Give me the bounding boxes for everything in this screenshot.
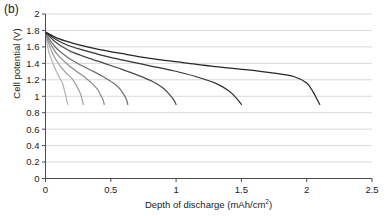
y-tick-label: 0 [34, 173, 39, 184]
y-tick-label: 0.6 [26, 124, 39, 135]
gridlines-group [46, 14, 373, 162]
y-tick-label: 1 [34, 91, 39, 102]
x-tick-label: 1.5 [235, 184, 248, 195]
x-tick-label: 2.5 [365, 184, 378, 195]
x-ticks-group: 00.511.522.5 [43, 179, 379, 195]
data-curve-curve-6 [46, 32, 242, 104]
x-tick-label: 1 [173, 184, 178, 195]
plot-svg: 00.20.40.60.811.21.41.61.82 00.511.522.5 [0, 0, 391, 216]
figure-container: (b) Cell potential (V) Depth of discharg… [0, 0, 391, 216]
data-curves-group [46, 32, 320, 104]
y-tick-label: 0.8 [26, 107, 39, 118]
y-tick-label: 1.8 [26, 25, 39, 36]
y-tick-label: 2 [34, 8, 39, 19]
x-tick-label: 0.5 [104, 184, 117, 195]
x-tick-label: 2 [304, 184, 309, 195]
x-tick-label: 0 [43, 184, 48, 195]
y-tick-label: 0.2 [26, 156, 39, 167]
y-tick-label: 1.4 [26, 58, 39, 69]
y-ticks-group: 00.20.40.60.811.21.41.61.82 [26, 8, 45, 184]
y-tick-label: 1.6 [26, 41, 39, 52]
y-tick-label: 0.4 [26, 140, 39, 151]
y-tick-label: 1.2 [26, 74, 39, 85]
